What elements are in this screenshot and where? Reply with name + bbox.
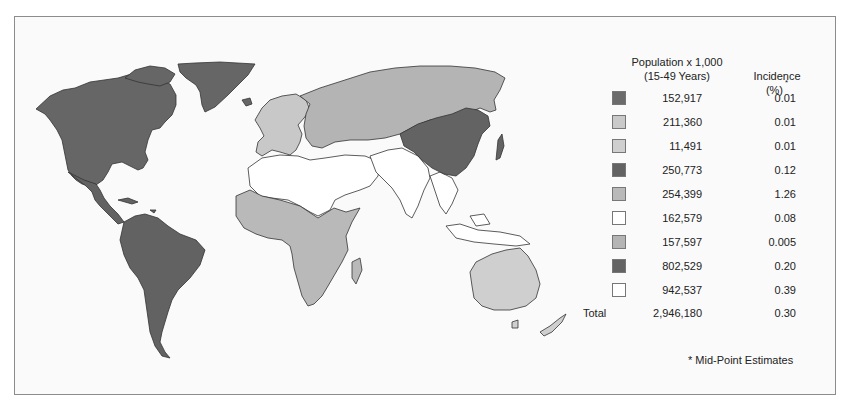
legend-total-label: Total (583, 307, 606, 319)
legend-row: 942,537 0.39 (612, 282, 812, 300)
region-new-zealand (512, 314, 566, 336)
legend-row: 802,529 0.20 (612, 258, 812, 276)
region-south-america (120, 214, 205, 358)
legend-row: 11,491 0.01 (612, 138, 812, 156)
region-north-america (36, 73, 176, 186)
legend-swatch (612, 163, 626, 177)
legend-total-population: 2,946,180 (636, 307, 702, 319)
legend-total-incidence: 0.30 (760, 307, 796, 319)
legend-header-population: Population x 1,000 (15-49 Years) (622, 55, 732, 83)
legend-row: 254,399 1.26 (612, 186, 812, 204)
legend-swatch (612, 211, 626, 225)
legend-row: 162,579 0.08 (612, 210, 812, 228)
legend-swatch (612, 91, 626, 105)
region-japan (496, 134, 504, 160)
footnote: * Mid-Point Estimates (688, 354, 793, 366)
legend-swatch (612, 283, 626, 297)
legend-swatch (612, 115, 626, 129)
legend-row: 211,360 0.01 (612, 114, 812, 132)
legend-swatch (612, 139, 626, 153)
legend-swatch (612, 187, 626, 201)
legend-swatch (612, 235, 626, 249)
region-southeast-asia (430, 172, 530, 246)
region-western-europe (255, 94, 310, 156)
legend-row: 152,917 0.01 (612, 90, 812, 108)
legend-row: 250,773 0.12 (612, 162, 812, 180)
legend-swatch (612, 259, 626, 273)
region-sub-saharan-africa (236, 190, 360, 306)
region-australia (470, 248, 540, 310)
region-greenland (178, 62, 255, 112)
legend-row: 157,597 0.005 (612, 234, 812, 252)
